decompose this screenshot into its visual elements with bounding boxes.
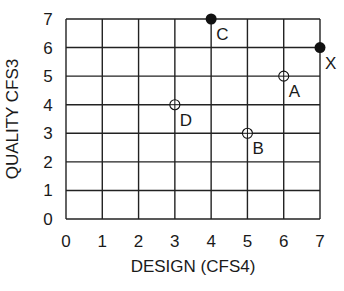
data-point-x: X (315, 42, 337, 72)
x-tick-label: 3 (170, 232, 179, 251)
x-tick-label: 7 (315, 232, 324, 251)
point-label: D (180, 111, 192, 130)
y-tick-label: 3 (43, 124, 52, 143)
y-tick-label: 4 (43, 96, 52, 115)
x-tick-label: 5 (243, 232, 252, 251)
x-axis-label: DESIGN (CFS4) (131, 257, 256, 276)
y-tick-label: 2 (43, 153, 52, 172)
y-tick-label: 5 (43, 67, 52, 86)
data-points: CXADB (170, 14, 336, 159)
point-label: X (325, 54, 336, 73)
y-tick-label: 6 (43, 39, 52, 58)
x-axis-ticks: 01234567 (61, 232, 324, 251)
y-tick-label: 7 (43, 10, 52, 29)
x-tick-label: 4 (206, 232, 215, 251)
y-tick-label: 0 (43, 210, 52, 229)
y-axis-label: QUALITY CFS3 (3, 59, 22, 180)
y-tick-label: 1 (43, 181, 52, 200)
grid (66, 19, 320, 219)
point-label: B (252, 139, 263, 158)
point-label: C (216, 25, 228, 44)
point-label: A (289, 82, 301, 101)
y-axis-ticks: 01234567 (43, 10, 52, 229)
x-tick-label: 6 (279, 232, 288, 251)
filled-marker-icon (315, 42, 326, 53)
data-point-c: C (206, 14, 229, 45)
x-tick-label: 0 (61, 232, 70, 251)
x-tick-label: 1 (98, 232, 107, 251)
filled-marker-icon (206, 14, 217, 25)
x-tick-label: 2 (134, 232, 143, 251)
scatter-chart: 01234567 01234567 CXADB DESIGN (CFS4) QU… (0, 0, 344, 291)
